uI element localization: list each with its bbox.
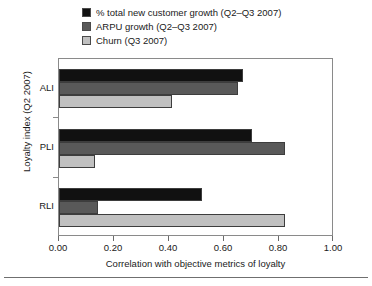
legend-item-2: Churn (Q3 2007) xyxy=(82,34,342,47)
x-axis-tick-0 xyxy=(58,236,59,241)
bar-rli-series-2 xyxy=(59,214,285,227)
legend-swatch-icon-2 xyxy=(82,36,91,45)
bar-pli-series-2 xyxy=(59,155,95,168)
x-axis-tick-1 xyxy=(113,236,114,241)
y-tick-label-pli: PLI xyxy=(40,141,54,152)
x-axis-tick-labels: 0.000.200.400.600.801.00 xyxy=(58,242,333,256)
x-axis-tick-5 xyxy=(332,236,333,241)
x-tick-label-1: 0.20 xyxy=(104,242,123,253)
x-tick-label-2: 0.40 xyxy=(159,242,178,253)
x-axis-title: Correlation with objective metrics of lo… xyxy=(58,258,333,269)
legend-swatch-icon-1 xyxy=(82,22,91,31)
legend-label-0: % total new customer growth (Q2–Q3 2007) xyxy=(96,7,281,18)
x-tick-label-3: 0.60 xyxy=(214,242,233,253)
bar-ali-series-0 xyxy=(59,69,243,82)
bar-group-ali xyxy=(59,69,332,108)
x-axis-tick-4 xyxy=(278,236,279,241)
legend-label-2: Churn (Q3 2007) xyxy=(96,35,167,46)
x-axis-tick-2 xyxy=(168,236,169,241)
y-axis-minor-tick-1 xyxy=(53,177,58,178)
bar-group-pli xyxy=(59,129,332,168)
y-tick-label-rli: RLI xyxy=(39,200,54,211)
legend-label-1: ARPU growth (Q2–Q3 2007) xyxy=(96,21,217,32)
figure-bottom-rule xyxy=(4,277,368,278)
plot-area xyxy=(59,59,332,235)
x-tick-label-0: 0.00 xyxy=(49,242,68,253)
bar-group-rli xyxy=(59,188,332,227)
x-axis-ticks xyxy=(58,236,333,241)
chart-legend: % total new customer growth (Q2–Q3 2007)… xyxy=(82,6,342,48)
x-axis-tick-3 xyxy=(223,236,224,241)
legend-item-1: ARPU growth (Q2–Q3 2007) xyxy=(82,20,342,33)
bar-rli-series-1 xyxy=(59,201,98,214)
y-axis-tick-labels: ALIPLIRLI xyxy=(18,58,54,236)
y-axis-minor-tick-0 xyxy=(53,117,58,118)
legend-item-0: % total new customer growth (Q2–Q3 2007) xyxy=(82,6,342,19)
x-tick-label-5: 1.00 xyxy=(324,242,343,253)
bar-pli-series-1 xyxy=(59,142,285,155)
bar-ali-series-2 xyxy=(59,95,172,108)
plot-frame xyxy=(58,58,333,236)
y-tick-label-ali: ALI xyxy=(40,82,54,93)
legend-swatch-icon-0 xyxy=(82,8,91,17)
chart-figure: % total new customer growth (Q2–Q3 2007)… xyxy=(0,0,372,286)
bar-pli-series-0 xyxy=(59,129,252,142)
x-tick-label-4: 0.80 xyxy=(269,242,288,253)
bar-rli-series-0 xyxy=(59,188,202,201)
bar-ali-series-1 xyxy=(59,82,238,95)
